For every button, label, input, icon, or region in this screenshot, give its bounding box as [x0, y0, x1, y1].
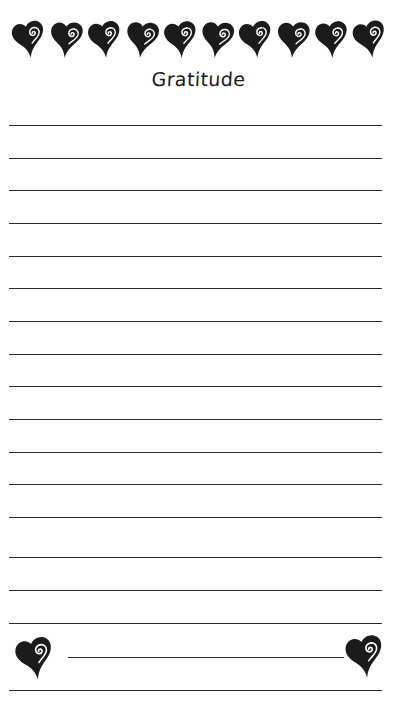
- writing-line[interactable]: [9, 419, 382, 420]
- heart-swirl-icon: [48, 18, 84, 60]
- heart-swirl-icon: [343, 632, 385, 684]
- heart-swirl-icon: [199, 18, 235, 60]
- writing-line[interactable]: [9, 288, 382, 289]
- writing-line[interactable]: [9, 557, 382, 558]
- heart-swirl-icon: [13, 634, 55, 686]
- writing-line[interactable]: [9, 223, 382, 224]
- writing-line[interactable]: [9, 623, 382, 624]
- gratitude-journal-page: Gratitude: [0, 0, 397, 724]
- writing-line[interactable]: [9, 190, 382, 191]
- heart-border-row: [10, 18, 387, 64]
- writing-line[interactable]: [9, 452, 382, 453]
- writing-line[interactable]: [9, 590, 382, 591]
- writing-line[interactable]: [9, 386, 382, 387]
- writing-line[interactable]: [9, 256, 382, 257]
- writing-line[interactable]: [9, 690, 382, 691]
- heart-swirl-icon: [86, 18, 122, 60]
- writing-line[interactable]: [9, 125, 382, 126]
- heart-swirl-icon: [162, 18, 198, 60]
- heart-swirl-icon: [124, 18, 160, 60]
- heart-swirl-icon: [313, 18, 349, 60]
- writing-line[interactable]: [9, 484, 382, 485]
- writing-line[interactable]: [9, 354, 382, 355]
- heart-swirl-icon: [351, 18, 387, 60]
- heart-swirl-icon: [237, 18, 273, 60]
- writing-line[interactable]: [9, 158, 382, 159]
- writing-line[interactable]: [9, 517, 382, 518]
- heart-swirl-icon: [10, 18, 46, 60]
- page-title: Gratitude: [0, 68, 397, 90]
- writing-line[interactable]: [9, 321, 382, 322]
- footer-signature-line[interactable]: [68, 657, 344, 658]
- heart-swirl-icon: [275, 18, 311, 60]
